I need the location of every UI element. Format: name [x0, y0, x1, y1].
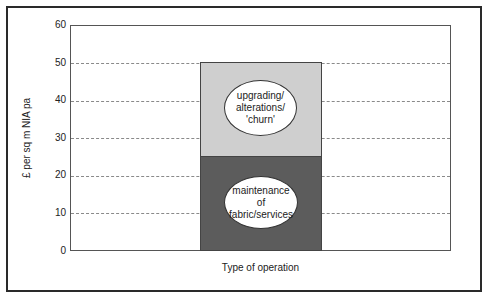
y-tick-10: 10: [36, 207, 66, 219]
y-tick-50: 50: [36, 57, 66, 69]
y-tick-40: 40: [36, 94, 66, 106]
y-tick-60: 60: [36, 19, 66, 31]
y-axis-label: £ per sq m NIA pa: [21, 98, 32, 178]
label-maintenance: maintenance of fabric/services: [224, 176, 298, 229]
y-tick-20: 20: [36, 169, 66, 181]
x-axis-label: Type of operation: [200, 262, 321, 273]
y-tick-30: 30: [36, 132, 66, 144]
y-tick-0: 0: [36, 245, 66, 257]
label-upgrading: upgrading/ alterations/ 'churn': [224, 80, 297, 136]
